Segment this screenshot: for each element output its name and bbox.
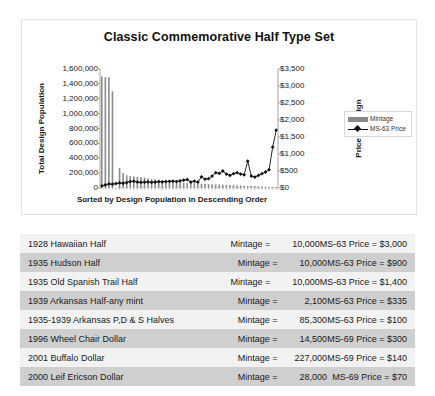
mintage-bar <box>186 183 188 188</box>
mintage-bar <box>183 183 185 188</box>
ms63-price-marker <box>107 182 111 186</box>
mintage-label: Mintage = <box>238 315 280 325</box>
y-axis-right-tick-label: $0 <box>280 184 289 192</box>
mintage-bar <box>105 77 107 188</box>
mintage-label: Mintage = <box>238 353 280 363</box>
y-axis-left-tick-label: 1,200,000 <box>42 95 98 103</box>
table-row: 1935-1939 Arkansas P,D & S HalvesMintage… <box>20 310 415 329</box>
table-row: 1935 Hudson HalfMintage = 10,000MS-63 Pr… <box>20 253 415 272</box>
mintage-label: Mintage = <box>238 334 280 344</box>
y-axis-left-tick-label: 400,000 <box>42 154 98 162</box>
y-axis-right-tick-label: $1,500 <box>280 133 304 141</box>
mintage-bar <box>258 186 260 188</box>
legend-item-mintage: Mintage <box>348 114 408 124</box>
legend-label-ms63: MS-63 Price <box>370 125 406 133</box>
table-row: 1996 Wheel Chair DollarMintage = 14,500M… <box>20 329 415 348</box>
ms63-price-marker <box>246 159 250 163</box>
mintage-bar <box>194 183 196 188</box>
y-axis-right-tick-label: $3,500 <box>280 65 304 73</box>
ms63-price-line <box>102 130 276 186</box>
mintage-bar <box>251 186 253 188</box>
table-row: 2000 Leif Ericson DollarMintage = 28,000… <box>20 367 415 386</box>
mintage-cell: Mintage = 227,000 <box>220 353 327 363</box>
chart-panel: Classic Commemorative Half Type Set Tota… <box>21 19 417 215</box>
mintage-bar <box>122 173 124 188</box>
ms63-price-marker <box>132 179 136 183</box>
ms63-price-marker <box>125 181 129 185</box>
mintage-bar <box>226 185 228 188</box>
price-cell: MS-63 Price = $100 <box>327 315 415 325</box>
coin-name-cell: 1935 Hudson Half <box>20 258 220 268</box>
mintage-bar <box>108 77 110 188</box>
coin-name-cell: 1935 Old Spanish Trail Half <box>20 277 215 287</box>
mintage-value: 10,000 <box>273 239 320 249</box>
mintage-bar <box>179 182 181 188</box>
legend-label-mintage: Mintage <box>370 115 393 123</box>
ms63-price-marker <box>128 180 132 184</box>
ms63-price-marker <box>143 180 147 184</box>
ms63-price-marker <box>164 180 168 184</box>
mintage-label: Mintage = <box>238 296 280 306</box>
ms63-price-marker <box>103 183 107 187</box>
ms63-price-marker <box>111 182 115 186</box>
mintage-bar <box>101 76 103 188</box>
mintage-bar <box>211 184 213 188</box>
mintage-bar <box>215 184 217 188</box>
ms63-price-marker <box>228 174 232 178</box>
mintage-value: 227,000 <box>280 353 327 363</box>
price-cell: MS-63 Price = $335 <box>327 296 415 306</box>
ms63-price-marker <box>182 178 186 182</box>
y-axis-left-tick-label: 1,000,000 <box>42 110 98 118</box>
mintage-bar <box>222 185 224 188</box>
ms63-price-marker <box>239 172 243 176</box>
coin-data-table: 1928 Hawaiian HalfMintage = 10,000MS-63 … <box>20 234 415 386</box>
coin-name-cell: 1928 Hawaiian Half <box>20 239 215 249</box>
y-axis-left-tick-label: 800,000 <box>42 125 98 133</box>
chart-legend: Mintage MS-63 Price <box>344 111 412 137</box>
mintage-value: 10,000 <box>280 258 327 268</box>
y-axis-left-tick-label: 1,400,000 <box>42 80 98 88</box>
ms63-price-marker <box>175 180 179 184</box>
mintage-bar <box>247 186 249 188</box>
mintage-cell: Mintage = 28,000 <box>220 372 327 382</box>
price-cell: MS-63 Price = $3,000 <box>320 239 415 249</box>
mintage-value: 85,300 <box>280 315 327 325</box>
y-axis-right-tick-label: $2,000 <box>280 116 304 124</box>
mintage-value: 10,000 <box>273 277 320 287</box>
coin-name-cell: 2001 Buffalo Dollar <box>20 353 220 363</box>
ms63-price-marker <box>150 180 154 184</box>
mintage-label: Mintage = <box>230 277 272 287</box>
mintage-bar <box>204 184 206 188</box>
ms63-price-marker <box>118 181 122 185</box>
y-axis-left-ticks: 0200,000400,000600,000800,0001,000,0001,… <box>42 20 98 190</box>
mintage-bar <box>240 185 242 188</box>
mintage-value: 28,000 <box>280 372 327 382</box>
mintage-label: Mintage = <box>238 258 280 268</box>
y-axis-right-tick-label: $2,500 <box>280 99 304 107</box>
y-axis-left-tick-label: 1,600,000 <box>42 65 98 73</box>
mintage-bar <box>275 187 277 188</box>
chart-canvas <box>100 69 278 188</box>
mintage-cell: Mintage = 10,000 <box>220 258 327 268</box>
ms63-price-marker <box>171 179 175 183</box>
y-axis-right-tick-label: $1,000 <box>280 150 304 158</box>
table-row: 1935 Old Spanish Trail HalfMintage = 10,… <box>20 272 415 291</box>
mintage-bar <box>201 184 203 188</box>
ms63-price-marker <box>139 180 143 184</box>
mintage-label: Mintage = <box>230 239 272 249</box>
mintage-bar <box>272 187 274 188</box>
mintage-bar <box>218 185 220 188</box>
ms63-line-swatch-icon <box>348 125 368 133</box>
y-axis-left-tick-label: 0 <box>42 184 98 192</box>
ms63-price-marker <box>114 182 118 186</box>
coin-name-cell: 1996 Wheel Chair Dollar <box>20 334 220 344</box>
ms63-price-marker <box>192 179 196 183</box>
mintage-value: 2,100 <box>280 296 327 306</box>
price-cell: MS-69 Price = $300 <box>327 334 415 344</box>
ms63-price-marker <box>157 180 161 184</box>
mintage-cell: Mintage = 14,500 <box>220 334 327 344</box>
mintage-bar <box>208 184 210 188</box>
mintage-label: Mintage = <box>238 372 280 382</box>
y-axis-right-tick-label: $3,000 <box>280 82 304 90</box>
mintage-bar <box>236 185 238 188</box>
